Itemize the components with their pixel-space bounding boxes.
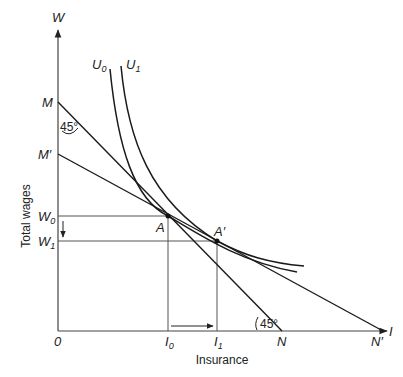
point-a (166, 214, 171, 219)
label-a: A (155, 220, 165, 235)
label-m: M (42, 95, 53, 110)
y-axis-title: Total wages (19, 184, 33, 247)
label-i1: I1 (214, 334, 223, 351)
y-axis-symbol: W (52, 10, 66, 25)
label-w1: W1 (38, 234, 55, 251)
x-axis-title: Insurance (196, 353, 249, 367)
label-a-prime: A′ (213, 224, 226, 239)
label-u0: U0 (92, 57, 106, 74)
label-u1: U1 (126, 57, 140, 74)
angle-label-bottom: 45° (260, 317, 278, 331)
indifference-curve-u0 (110, 69, 297, 272)
angle-arc-bottom (256, 317, 258, 330)
label-n: N (277, 334, 287, 349)
indifference-curve-u1 (121, 66, 304, 266)
label-i0: I0 (165, 334, 174, 351)
label-w0: W0 (38, 209, 55, 226)
x-axis-symbol: I (389, 324, 393, 339)
label-m-prime: M′ (38, 147, 52, 162)
origin-label: 0 (54, 334, 62, 349)
angle-label-top: 45° (60, 120, 78, 134)
insurance-wage-diagram: W I 0 M M′ N N′ U0 U1 A A′ W0 W1 I0 I1 4… (0, 0, 403, 377)
label-n-prime: N′ (371, 334, 383, 349)
point-a-prime (215, 239, 220, 244)
